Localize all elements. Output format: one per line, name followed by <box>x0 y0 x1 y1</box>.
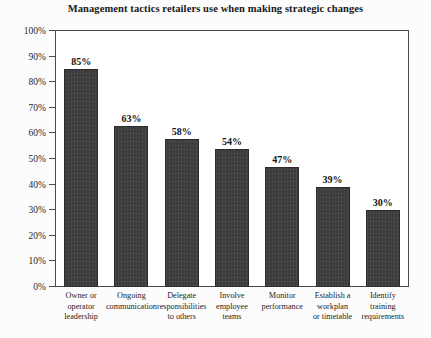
y-axis-tick: 30% <box>0 204 55 216</box>
y-axis-tick-mark <box>49 107 55 108</box>
x-axis-category-label-line: Establish a <box>304 291 360 302</box>
y-axis-tick-label: 10% <box>29 255 46 267</box>
y-axis-tick: 80% <box>0 76 55 88</box>
bar-value-label: 30% <box>356 197 410 208</box>
bar-group[interactable]: 63% <box>114 31 148 287</box>
x-axis-category-label-line: to others <box>154 312 210 323</box>
x-axis-category-label-line: teams <box>204 312 260 323</box>
y-axis-tick-mark <box>49 81 55 82</box>
x-axis-category-label: Involveemployeeteams <box>204 291 260 323</box>
bar-group[interactable]: 39% <box>316 31 350 287</box>
x-axis-category-label: Owner oroperatorleadership <box>53 291 109 323</box>
y-axis-tick-label: 40% <box>29 179 46 191</box>
x-axis-category-label-line: performance <box>254 302 310 313</box>
bar-value-label: 54% <box>205 136 259 147</box>
x-axis-category-label-line: responsibilities <box>154 302 210 313</box>
bar-value-label: 47% <box>255 154 309 165</box>
bar-group[interactable]: 54% <box>215 31 249 287</box>
x-axis-category-label-line: Ongoing <box>103 291 159 302</box>
x-axis-category-label-line: workplan <box>304 302 360 313</box>
x-axis-category-label: Identifytrainingrequirements <box>355 291 411 323</box>
y-axis-tick-label: 20% <box>29 230 46 242</box>
x-axis-category-label: Monitorperformance <box>254 291 310 312</box>
y-axis-tick-mark <box>49 260 55 261</box>
x-axis-category-label-line: operator <box>53 302 109 313</box>
x-axis-category-label-line: leadership <box>53 312 109 323</box>
y-axis-tick: 90% <box>0 51 55 63</box>
bar[interactable] <box>265 167 299 287</box>
y-axis-tick-label: 100% <box>24 25 46 37</box>
bar-value-label: 58% <box>155 126 209 137</box>
bar-group[interactable]: 58% <box>165 31 199 287</box>
x-axis-category-label: Establish aworkplanor timetable <box>304 291 360 323</box>
bar[interactable] <box>165 139 199 287</box>
y-axis-tick-label: 70% <box>29 102 46 114</box>
bar-series: 85%63%58%54%47%39%30% <box>56 31 408 287</box>
x-axis-category-label-line: requirements <box>355 312 411 323</box>
y-axis-tick: 50% <box>0 153 55 165</box>
bar[interactable] <box>114 126 148 287</box>
y-axis-tick-label: 60% <box>29 127 46 139</box>
bar-value-label: 39% <box>306 174 360 185</box>
bar-group[interactable]: 85% <box>64 31 98 287</box>
x-axis-category-label-line: Identify <box>355 291 411 302</box>
y-axis-tick-mark <box>49 184 55 185</box>
y-axis-tick: 70% <box>0 102 55 114</box>
bar-value-label: 85% <box>54 56 108 67</box>
bar[interactable] <box>366 210 400 287</box>
y-axis-tick-label: 50% <box>29 153 46 165</box>
x-axis-category-label-line: Owner or <box>53 291 109 302</box>
x-axis-category-label-line: communication <box>103 302 159 313</box>
chart-container: Management tactics retailers use when ma… <box>0 0 431 338</box>
bar-value-label: 63% <box>104 113 158 124</box>
bar-group[interactable]: 30% <box>366 31 400 287</box>
x-axis-category-label-line: or timetable <box>304 312 360 323</box>
x-axis-category-label: Delegateresponsibilitiesto others <box>154 291 210 323</box>
x-axis-category-labels: Owner oroperatorleadershipOngoingcommuni… <box>56 291 408 337</box>
y-axis-tick: 60% <box>0 127 55 139</box>
y-axis-tick-mark <box>49 286 55 287</box>
bar[interactable] <box>64 69 98 287</box>
y-axis-tick-mark <box>49 132 55 133</box>
y-axis-tick: 20% <box>0 230 55 242</box>
y-axis-tick-label: 80% <box>29 76 46 88</box>
y-axis-tick-label: 0% <box>33 281 46 293</box>
bar[interactable] <box>316 187 350 287</box>
x-axis-category-label: Ongoingcommunication <box>103 291 159 312</box>
chart-title: Management tactics retailers use when ma… <box>0 3 431 14</box>
y-axis: 0%10%20%30%40%50%60%70%80%90%100% <box>0 30 55 288</box>
y-axis-tick-mark <box>49 209 55 210</box>
y-axis-tick: 10% <box>0 255 55 267</box>
y-axis-tick-mark <box>49 158 55 159</box>
y-axis-tick: 100% <box>0 25 55 37</box>
x-axis-category-label-line: Monitor <box>254 291 310 302</box>
x-axis-category-label-line: training <box>355 302 411 313</box>
x-axis-category-label-line: Delegate <box>154 291 210 302</box>
bar[interactable] <box>215 149 249 287</box>
y-axis-tick: 40% <box>0 179 55 191</box>
y-axis-tick: 0% <box>0 281 55 293</box>
bar-group[interactable]: 47% <box>265 31 299 287</box>
y-axis-tick-mark <box>49 235 55 236</box>
x-axis-category-label-line: Involve <box>204 291 260 302</box>
x-axis-category-label-line: employee <box>204 302 260 313</box>
y-axis-tick-label: 30% <box>29 204 46 216</box>
y-axis-tick-label: 90% <box>29 51 46 63</box>
y-axis-tick-mark <box>49 30 55 31</box>
